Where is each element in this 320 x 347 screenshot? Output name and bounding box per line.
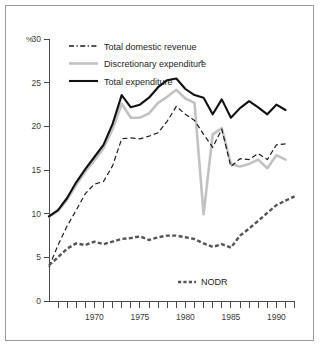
chart-legend: Total domestic revenue Discretionary exp… — [69, 42, 206, 87]
x-tick-label-1990: 1990 — [267, 312, 286, 322]
nodr-annotation-label: NODR — [201, 277, 228, 287]
x-tick-label-1975: 1975 — [130, 312, 149, 322]
y-tick-label-25: 25 — [32, 78, 42, 88]
y-tick-label-5: 5 — [36, 252, 41, 262]
x-tick-label-1985: 1985 — [221, 312, 240, 322]
series-line-total-expenditure — [49, 79, 286, 217]
y-tick-label-30: 30 — [32, 34, 42, 44]
y-tick-label-10: 10 — [32, 209, 42, 219]
y-tick-label-15: 15 — [32, 165, 42, 175]
legend-label-total-expenditure: Total expenditure — [104, 77, 173, 87]
legend-label-total-domestic-revenue: Total domestic revenue — [104, 42, 197, 52]
legend-item-total-expenditure: Total expenditure — [69, 77, 173, 87]
x-tick-label-1970: 1970 — [85, 312, 104, 322]
line-chart: % 30 25 20 15 10 5 0 — [6, 6, 313, 340]
y-tick-label-0: 0 — [36, 296, 41, 306]
legend-item-discretionary-expenditure: Discretionary expenditure a — [69, 58, 206, 69]
x-tick-label-1980: 1980 — [176, 312, 195, 322]
x-axis-ticks — [58, 301, 295, 308]
nodr-annotation: NODR — [178, 277, 228, 287]
figure-frame: % 30 25 20 15 10 5 0 — [5, 5, 314, 341]
y-axis-ticks: 30 25 20 15 10 5 0 — [32, 34, 49, 306]
legend-item-total-domestic-revenue: Total domestic revenue — [69, 42, 197, 52]
y-tick-label-20: 20 — [32, 121, 42, 131]
series-line-total-domestic-revenue — [49, 106, 286, 267]
series-line-nodr — [49, 196, 295, 265]
series-line-discretionary-expenditure — [49, 90, 286, 217]
legend-label-discretionary-expenditure: Discretionary expenditure — [104, 59, 206, 69]
